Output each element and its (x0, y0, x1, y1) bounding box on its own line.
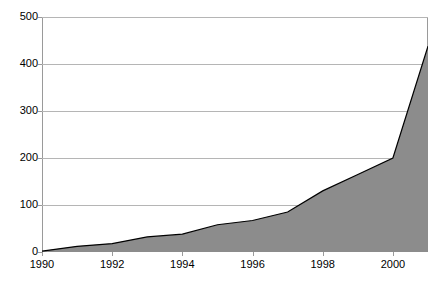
x-tick-label-2000: 2000 (373, 258, 413, 270)
y-tick-label-200: 200 (4, 152, 38, 163)
y-tick-mark-200 (38, 158, 42, 159)
x-tick-label-1998: 1998 (303, 258, 343, 270)
plot-canvas (42, 17, 428, 252)
y-tick-label-100: 100 (4, 199, 38, 210)
x-tick-label-1990: 1990 (22, 258, 62, 270)
x-tick-mark-1992 (112, 252, 113, 256)
y-tick-mark-400 (38, 64, 42, 65)
y-tick-mark-100 (38, 205, 42, 206)
y-axis: 0100200300400500 (0, 0, 38, 285)
x-tick-label-1996: 1996 (233, 258, 273, 270)
y-tick-label-0: 0 (4, 246, 38, 257)
x-tick-mark-2000 (393, 252, 394, 256)
x-tick-mark-1990 (42, 252, 43, 256)
x-tick-label-1992: 1992 (92, 258, 132, 270)
x-tick-mark-1998 (323, 252, 324, 256)
y-tick-mark-500 (38, 17, 42, 18)
y-tick-label-400: 400 (4, 58, 38, 69)
y-tick-mark-300 (38, 111, 42, 112)
x-tick-mark-1994 (182, 252, 183, 256)
y-tick-label-300: 300 (4, 105, 38, 116)
x-tick-mark-1996 (253, 252, 254, 256)
area-series-fill (42, 46, 428, 252)
y-tick-label-500: 500 (4, 11, 38, 22)
area-chart: 0100200300400500 19901992199419961998200… (0, 0, 441, 285)
x-tick-label-1994: 1994 (162, 258, 202, 270)
